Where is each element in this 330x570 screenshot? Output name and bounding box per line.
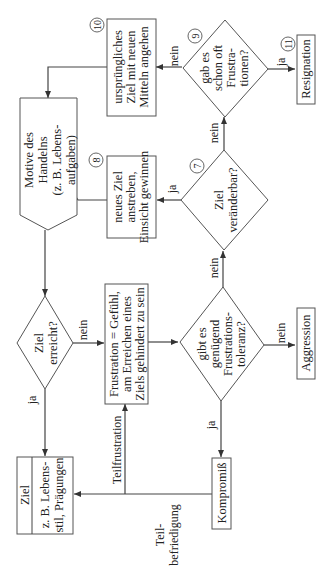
step-9-number: 9	[190, 34, 201, 39]
resignation-label: Resignation	[299, 38, 313, 98]
step-11-number: 11	[283, 39, 294, 49]
oft-frustrationen-line: tionen?	[237, 49, 251, 86]
frustration-line: am Erreichen eines	[120, 296, 134, 392]
step-7-number: 7	[192, 164, 203, 169]
kompromiss-label: Kompromiß	[215, 462, 229, 523]
toleranz-line: Frustrations-	[221, 312, 235, 376]
toleranz-line: gibt es	[195, 327, 209, 360]
label-teilbefriedigung: Teil- befriedigung	[153, 504, 181, 565]
label-ja-neues-ziel: ja	[165, 184, 179, 194]
ziel-erreicht-line: Ziel	[32, 332, 46, 353]
ziel-box-line: z. B. Lebens-	[38, 462, 52, 529]
frustration-line: Ziels gehindert zu sein	[133, 287, 147, 401]
urspruengliches-line: Ziel mit neuen	[124, 30, 138, 104]
label-nein-oft: nein	[207, 123, 221, 144]
oft-frustrationen-line: Frustra-	[224, 48, 238, 88]
label-ja-erreicht: ja	[25, 395, 39, 405]
motive-line: (z. B. Lebens-	[50, 125, 64, 196]
toleranz-line: genügend	[208, 319, 222, 368]
motive-line: aufgaben)	[64, 135, 78, 185]
ziel-box-title: Ziel	[18, 484, 32, 505]
veraenderbar-line: Ziel	[212, 189, 226, 210]
label-nein-urspruengliches: nein	[167, 46, 181, 67]
ziel-box-line: stil, Prägungen	[52, 457, 66, 533]
label-nein-veraenderbar: nein	[207, 258, 221, 279]
label-nein-erreicht: nein	[76, 320, 90, 341]
label-ja-toleranz: ja	[204, 420, 218, 430]
urspruengliches-text: ursprüngliches Ziel mit neuen Mitteln an…	[111, 25, 151, 107]
flowchart: Motive des Handelns (z. B. Lebens- aufga…	[0, 0, 330, 570]
motive-line: Handelns	[36, 136, 50, 183]
neues-ziel-line: anstreben,	[124, 171, 138, 222]
neues-ziel-line: neues Ziel	[111, 171, 125, 223]
motive-text: Motive des Handelns (z. B. Lebens- aufga…	[22, 125, 78, 196]
motive-line: Motive des	[22, 132, 36, 188]
urspruengliches-line: Mitteln angehen	[137, 25, 151, 107]
oft-frustrationen-line: gab es	[198, 52, 212, 84]
label-nein-aggression: nein	[274, 323, 288, 344]
step-8-number: 8	[91, 158, 102, 163]
aggression-label: Aggression	[299, 314, 313, 372]
step-10-number: 10	[92, 20, 103, 30]
urspruengliches-line: ursprüngliches	[111, 30, 125, 104]
label-teilbefriedigung-line: Teil-	[153, 524, 167, 546]
frustration-line: Frustration = Gefühl,	[107, 291, 121, 397]
label-teilfrustration: Teilfrustration	[110, 416, 124, 484]
edge-urspruengliches-to-motive	[48, 67, 107, 98]
ziel-box-text: z. B. Lebens- stil, Prägungen	[38, 457, 66, 533]
label-ja-resignation: ja	[274, 57, 288, 67]
oft-frustrationen-line: schon oft	[211, 44, 225, 91]
frustration-text: Frustration = Gefühl, am Erreichen eines…	[107, 287, 147, 401]
veraenderbar-line: veränderbar?	[226, 167, 240, 233]
toleranz-line: toleranz?	[234, 321, 248, 367]
ziel-erreicht-line: erreicht?	[46, 321, 60, 365]
neues-ziel-line: Einsicht gewinnen	[137, 150, 151, 243]
label-teilbefriedigung-line: befriedigung	[167, 504, 181, 565]
